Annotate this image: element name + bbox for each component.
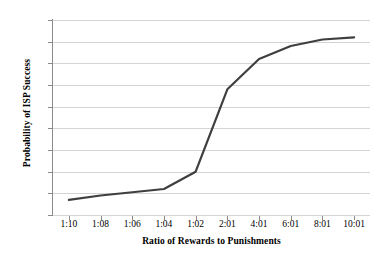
x-axis-title: Ratio of Rewards to Punishments (53, 236, 370, 246)
data-series-layer (0, 0, 380, 260)
chart-container: Probability of ISP Success 90%80%70%60%5… (0, 0, 380, 260)
series-line-probability-of-isp-success (69, 37, 354, 200)
